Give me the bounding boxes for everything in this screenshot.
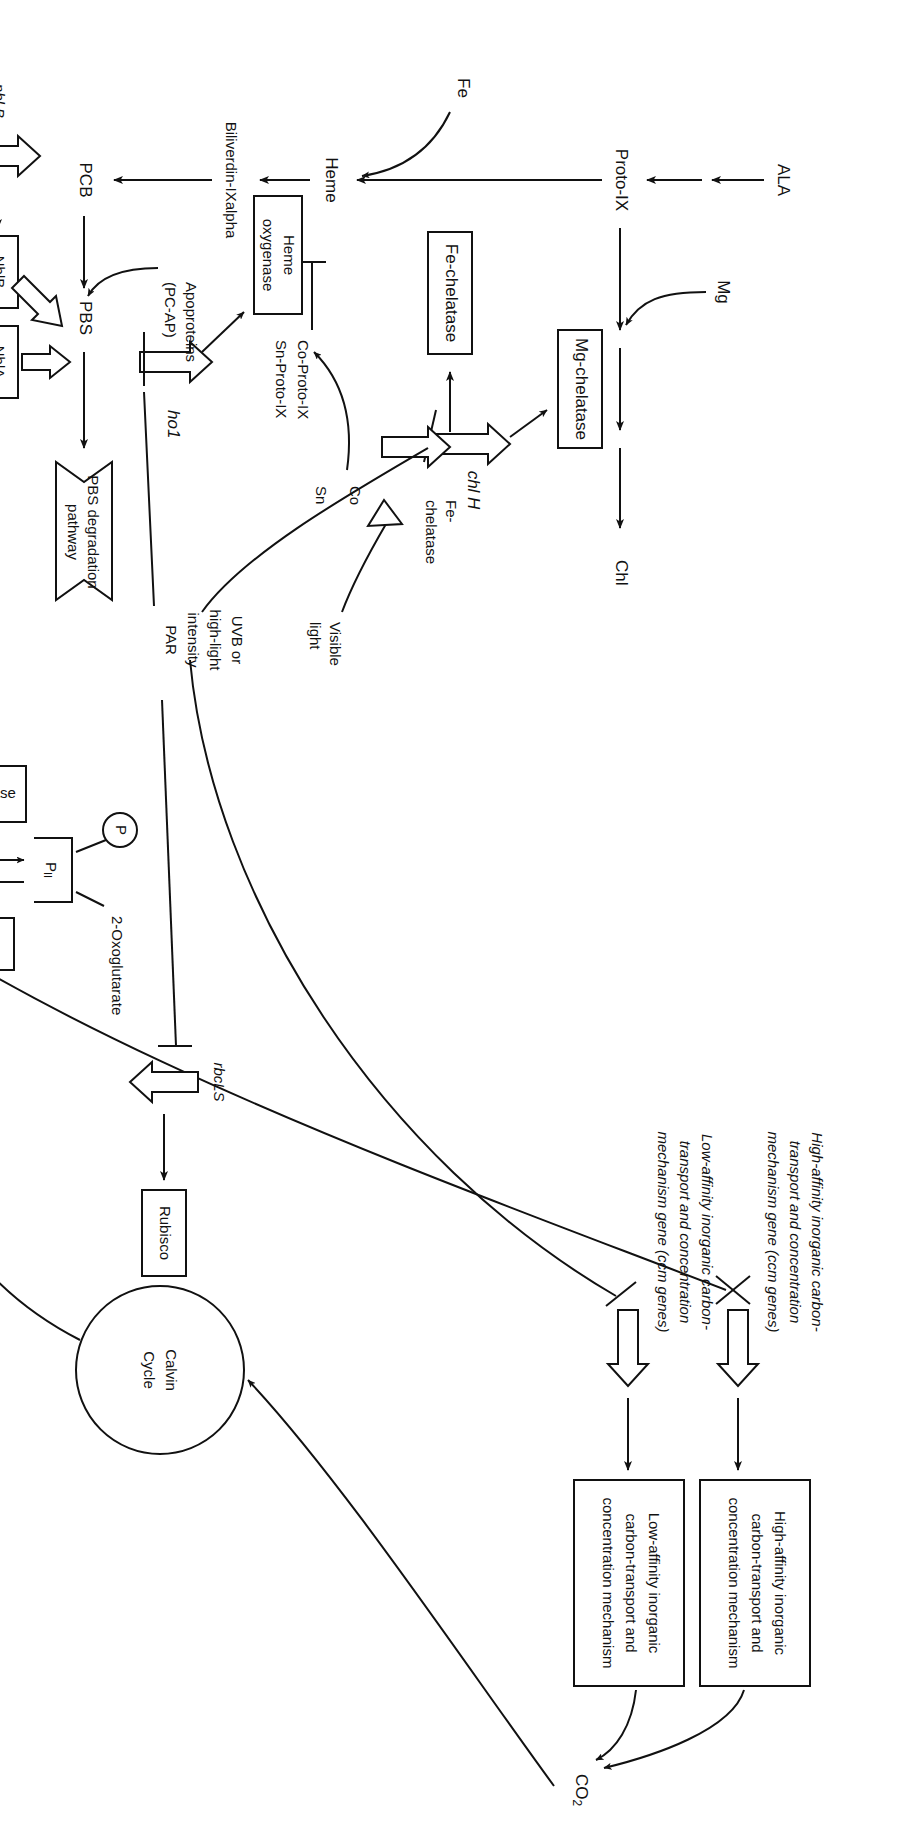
label-low-affinity-box-l2: carbon-transport and — [623, 1513, 640, 1652]
label-high-affinity-gene-l1: High-affinity inorganic carbon- — [809, 1132, 826, 1331]
gene-label-nblB: nbl B — [0, 84, 8, 118]
label-pcb: PCB — [76, 163, 95, 198]
label-uvb-l1: UVB or — [229, 616, 246, 664]
label-low-affinity-box-l3: concentration mechanism — [600, 1498, 617, 1669]
label-heme-oxygenase-l2: oxygenase — [260, 219, 277, 292]
label-visible-light-l2: light — [307, 622, 324, 650]
label-calvin-l1: Calvin — [163, 1349, 180, 1391]
label-low-affinity-gene-l2: transport and concentration — [677, 1141, 694, 1324]
rotated-figure-wrapper: ALA Proto-IX Chl Mg Mg-chelatase chl H F… — [0, 0, 902, 1846]
label-uvb-l4: PAR — [163, 625, 180, 655]
label-rubisco: Rubisco — [157, 1206, 174, 1260]
label-high-affinity-box-l1: High-affinity inorganic — [772, 1511, 789, 1655]
label-fe: Fe — [454, 78, 473, 98]
pathway-diagram-svg: ALA Proto-IX Chl Mg Mg-chelatase chl H F… — [0, 0, 902, 1846]
gene-label-ho1: ho1 — [164, 410, 183, 438]
label-nbla: NblA — [0, 346, 8, 379]
label-mg: Mg — [714, 280, 733, 304]
label-nblb: NblB — [0, 256, 8, 289]
label-mg-chelatase: Mg-chelatase — [572, 338, 591, 440]
label-heme-oxygenase-l1: Heme — [281, 235, 298, 275]
label-pbs: PBS — [76, 301, 95, 335]
gene-label-chlH: chl H — [464, 471, 483, 510]
circle-calvin-cycle — [76, 1286, 244, 1454]
label-high-affinity-gene-l2: transport and concentration — [787, 1141, 804, 1324]
label-low-affinity-gene-l3: mechanism gene (ccm genes) — [655, 1132, 672, 1333]
box-kinase — [0, 918, 14, 970]
label-uvb-l2: high-light — [207, 610, 224, 672]
label-apoproteins-l2: (PC-AP) — [162, 282, 179, 338]
label-pbs-degradation-l2: pathway — [65, 504, 82, 560]
label-fe-chelatase-protein-l1: Fe- — [443, 500, 460, 523]
label-uvb-l3: intensity — [185, 612, 202, 668]
label-sn-proto-ix: Sn-Proto-IX — [273, 340, 290, 418]
label-oxoglutarate-top: 2-Oxoglutarate — [109, 916, 126, 1015]
label-fe-chelatase: Fe-chelatase — [442, 244, 461, 342]
gene-label-rbcLS: rbcLS — [211, 1062, 228, 1101]
label-chl: Chl — [612, 560, 631, 586]
label-fe-chelatase-protein-l2: chelatase — [423, 500, 440, 564]
label-proto-ix: Proto-IX — [612, 149, 631, 211]
label-heme: Heme — [322, 157, 341, 202]
label-pbs-degradation-l1: PBS degradation — [85, 475, 102, 588]
label-apoproteins-l1: Apoproteins — [183, 282, 200, 362]
label-high-affinity-gene-l3: mechanism gene (ccm genes) — [765, 1132, 782, 1333]
label-biliverdin: Biliverdin-IXalpha — [223, 122, 240, 239]
label-high-affinity-box-l2: carbon-transport and — [749, 1513, 766, 1652]
label-calvin-l2: Cycle — [141, 1351, 158, 1389]
label-low-affinity-gene-l1: Low-affinity inorganic carbon- — [699, 1134, 716, 1330]
label-visible-light-l1: Visible — [327, 622, 344, 666]
label-ala: ALA — [774, 164, 793, 197]
label-high-affinity-box-l3: concentration mechanism — [726, 1498, 743, 1669]
label-low-affinity-box-l1: Low-affinity inorganic — [646, 1513, 663, 1654]
label-phosphatase: Phosphatase — [0, 784, 16, 801]
label-sn: Sn — [313, 486, 330, 504]
label-co2-subscript: 2 — [570, 1799, 584, 1806]
label-co-proto-ix: Co-Proto-IX — [295, 340, 312, 419]
label-phospho-pii: P — [113, 825, 130, 835]
diagram-canvas: ALA Proto-IX Chl Mg Mg-chelatase chl H F… — [0, 0, 902, 1846]
